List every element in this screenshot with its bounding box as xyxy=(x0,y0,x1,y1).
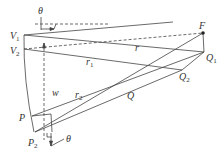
label-q1: Q1 xyxy=(206,52,217,65)
arrowhead-icon xyxy=(50,28,54,31)
label-p: P xyxy=(18,112,25,123)
geometry-diagram: θ V1 V2 F Q1 Q2 Q P P2 r r1 r2 w θ xyxy=(0,0,221,156)
label-q2: Q2 xyxy=(179,71,190,84)
point-f-dot xyxy=(201,31,205,35)
line-p2-f xyxy=(35,33,203,132)
line-q1-q2 xyxy=(182,52,204,70)
arrowhead-icon xyxy=(43,43,46,48)
label-q: Q xyxy=(127,90,135,101)
label-p2: P2 xyxy=(27,137,38,150)
label-f: F xyxy=(198,20,206,31)
label-r2: r2 xyxy=(75,89,83,102)
label-theta-top: θ xyxy=(38,5,43,16)
line-f-q1 xyxy=(203,33,204,52)
label-v1: V1 xyxy=(10,30,20,43)
label-r: r xyxy=(135,42,139,53)
theta-bottom-angle xyxy=(51,139,64,146)
v2-dashed-to-f xyxy=(24,33,203,49)
label-w: w xyxy=(52,87,59,98)
label-v2: V2 xyxy=(10,45,20,58)
theta-top-angle xyxy=(41,24,56,29)
line-p2-q2 xyxy=(35,70,182,132)
label-theta-bottom: θ xyxy=(66,133,71,144)
r-line-v1-q1 xyxy=(24,35,204,52)
p-vertical-segment xyxy=(51,114,52,132)
